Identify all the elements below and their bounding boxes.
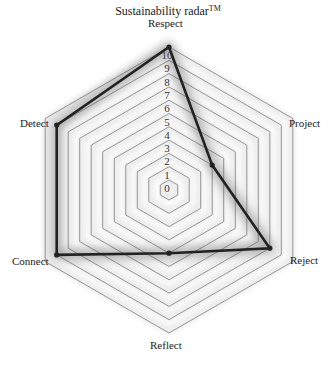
trademark-sup: TM bbox=[209, 4, 221, 13]
tick-label-3: 3 bbox=[164, 142, 170, 154]
data-point-reflect bbox=[166, 251, 171, 256]
radar-chart: 012345678910 bbox=[0, 0, 336, 366]
tick-label-6: 6 bbox=[164, 102, 170, 114]
data-point-respect bbox=[166, 44, 171, 49]
axis-label-reflect: Reflect bbox=[150, 339, 182, 352]
tick-label-7: 7 bbox=[164, 89, 170, 101]
axis-label-project: Project bbox=[289, 117, 320, 130]
data-point-project bbox=[210, 163, 215, 168]
tick-label-4: 4 bbox=[164, 129, 170, 141]
tick-label-2: 2 bbox=[164, 155, 170, 167]
tick-label-1: 1 bbox=[164, 169, 170, 181]
axis-label-reject: Reject bbox=[290, 254, 318, 267]
tick-label-9: 9 bbox=[164, 62, 170, 74]
data-point-connect bbox=[54, 252, 59, 257]
tick-label-8: 8 bbox=[164, 76, 170, 88]
chart-title-text: Sustainability radar bbox=[115, 4, 209, 18]
radar-series bbox=[54, 44, 272, 257]
data-point-detect bbox=[54, 123, 59, 128]
tick-label-0: 0 bbox=[164, 182, 170, 194]
tick-label-5: 5 bbox=[164, 116, 170, 128]
axis-label-detect: Detect bbox=[20, 117, 49, 130]
chart-title: Sustainability radarTM bbox=[0, 2, 336, 18]
axis-label-respect: Respect bbox=[148, 17, 183, 30]
data-point-reject bbox=[267, 246, 272, 251]
axis-label-connect: Connect bbox=[12, 255, 49, 268]
